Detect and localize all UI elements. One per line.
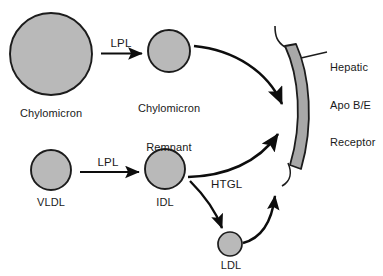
label-vldl: VLDL (37, 196, 65, 209)
receptor-leader-line (301, 52, 327, 58)
membrane-tail-upper (275, 26, 285, 47)
label-lpl-bottom: LPL (97, 156, 118, 169)
arrow-ldl-to-receptor (243, 196, 275, 243)
membrane-tail-lower (282, 163, 290, 186)
hepatic-apo-be-receptor-band (285, 44, 309, 169)
receptor-label-line1: Hepatic (330, 61, 375, 74)
label-chylomicron: Chylomicron (20, 107, 82, 120)
label-lpl-top: LPL (110, 37, 131, 50)
arrow-idl-to-receptor (188, 134, 278, 177)
arrow-remnant-to-receptor (194, 46, 282, 104)
label-idl: IDL (156, 196, 173, 209)
receptor-label-line3: Receptor (330, 136, 375, 149)
particle-chylomicron-remnant (148, 30, 190, 72)
label-hepatic-apo-be-receptor: Hepatic Apo B/E Receptor (330, 36, 375, 174)
particle-vldl (31, 150, 71, 190)
particle-ldl (218, 232, 242, 256)
receptor-label-line2: Apo B/E (330, 99, 375, 112)
label-htgl: HTGL (211, 178, 242, 191)
particle-chylomicron (10, 13, 92, 95)
label-chylomicron-remnant-line1: Chylomicron (138, 102, 200, 115)
label-chylomicron-remnant-line2: Remnant (138, 141, 200, 154)
label-chylomicron-remnant: Chylomicron Remnant (138, 76, 200, 180)
lipoprotein-metabolism-diagram: Chylomicron Chylomicron Remnant VLDL IDL… (0, 0, 383, 276)
label-ldl: LDL (221, 259, 241, 272)
